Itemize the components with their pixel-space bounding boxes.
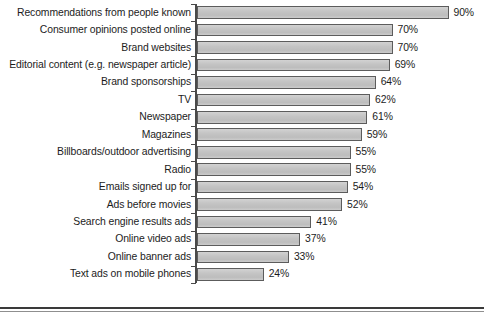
bar-value-label: 59% bbox=[367, 129, 388, 141]
bar bbox=[197, 24, 393, 37]
axis-tick bbox=[191, 126, 196, 127]
chart-row: TV62% bbox=[0, 91, 484, 108]
chart-row: Recommendations from people known90% bbox=[0, 4, 484, 21]
axis-tick bbox=[191, 231, 196, 232]
bar-group: 37% bbox=[197, 233, 326, 246]
bar bbox=[197, 268, 264, 281]
bar bbox=[197, 163, 351, 176]
category-label: Newspaper bbox=[3, 111, 191, 123]
bar-value-label: 33% bbox=[294, 251, 315, 263]
category-label: Consumer opinions posted online bbox=[3, 24, 191, 36]
bar-value-label: 24% bbox=[269, 268, 290, 280]
bar-group: 55% bbox=[197, 146, 377, 159]
chart-row: Online banner ads33% bbox=[0, 248, 484, 265]
axis-tick bbox=[191, 56, 196, 57]
category-label: Editorial content (e.g. newspaper articl… bbox=[3, 59, 191, 71]
bar bbox=[197, 198, 343, 211]
axis-tick bbox=[191, 144, 196, 145]
bar bbox=[197, 41, 393, 54]
bar-group: 61% bbox=[197, 111, 393, 124]
bar-group: 70% bbox=[197, 24, 419, 37]
bar bbox=[197, 6, 449, 19]
chart-row: Consumer opinions posted online70% bbox=[0, 21, 484, 38]
category-label: Billboards/outdoor advertising bbox=[3, 146, 191, 158]
chart-row: Search engine results ads41% bbox=[0, 213, 484, 230]
chart-row: Brand websites70% bbox=[0, 39, 484, 56]
axis-tick bbox=[191, 74, 196, 75]
bar-group: 64% bbox=[197, 76, 402, 89]
axis-tick bbox=[191, 39, 196, 40]
category-label: Search engine results ads bbox=[3, 216, 191, 228]
bar bbox=[197, 76, 376, 89]
bar-group: 41% bbox=[197, 216, 337, 229]
bar bbox=[197, 146, 351, 159]
chart-row: Radio55% bbox=[0, 161, 484, 178]
bar-group: 62% bbox=[197, 94, 396, 107]
bar-value-label: 37% bbox=[305, 233, 326, 245]
axis-tick bbox=[191, 266, 196, 267]
chart-row: Magazines59% bbox=[0, 126, 484, 143]
bar-group: 90% bbox=[197, 6, 475, 19]
bar-value-label: 70% bbox=[398, 42, 419, 54]
bar bbox=[197, 59, 390, 72]
axis-tick bbox=[191, 161, 196, 162]
category-label: TV bbox=[3, 94, 191, 106]
bar-value-label: 55% bbox=[356, 146, 377, 158]
bar-value-label: 70% bbox=[398, 24, 419, 36]
axis-tick bbox=[191, 4, 196, 5]
category-label: Radio bbox=[3, 164, 191, 176]
axis-tick bbox=[191, 248, 196, 249]
bar-value-label: 64% bbox=[381, 76, 402, 88]
bar bbox=[197, 94, 371, 107]
horizontal-bar-chart: Recommendations from people known90%Cons… bbox=[0, 0, 484, 317]
bar-value-label: 61% bbox=[372, 111, 393, 123]
category-label: Recommendations from people known bbox=[3, 7, 191, 19]
bar-value-label: 69% bbox=[395, 59, 416, 71]
plot-area: Recommendations from people known90%Cons… bbox=[0, 4, 484, 283]
category-label: Ads before movies bbox=[3, 199, 191, 211]
bar-group: 52% bbox=[197, 198, 368, 211]
axis-tick bbox=[191, 21, 196, 22]
bar-value-label: 54% bbox=[353, 181, 374, 193]
category-label: Online banner ads bbox=[3, 251, 191, 263]
category-label: Emails signed up for bbox=[3, 181, 191, 193]
category-label: Online video ads bbox=[3, 233, 191, 245]
bar-value-label: 55% bbox=[356, 164, 377, 176]
bar-group: 70% bbox=[197, 41, 419, 54]
bar-group: 54% bbox=[197, 181, 374, 194]
bar-value-label: 62% bbox=[375, 94, 396, 106]
category-label: Brand websites bbox=[3, 42, 191, 54]
chart-row: Brand sponsorships64% bbox=[0, 74, 484, 91]
bar-value-label: 52% bbox=[347, 199, 368, 211]
chart-row: Editorial content (e.g. newspaper articl… bbox=[0, 56, 484, 73]
axis-tick bbox=[191, 196, 196, 197]
bar-value-label: 41% bbox=[316, 216, 337, 228]
bar-group: 55% bbox=[197, 163, 377, 176]
bar-group: 24% bbox=[197, 268, 290, 281]
category-label: Text ads on mobile phones bbox=[3, 268, 191, 280]
bar-group: 59% bbox=[197, 128, 388, 141]
category-label: Brand sponsorships bbox=[3, 76, 191, 88]
chart-row: Emails signed up for54% bbox=[0, 178, 484, 195]
chart-row: Text ads on mobile phones24% bbox=[0, 266, 484, 283]
footer-rule-secondary bbox=[0, 311, 484, 312]
axis-tick bbox=[191, 109, 196, 110]
axis-tick bbox=[191, 179, 196, 180]
footer-rule bbox=[0, 307, 484, 309]
bar bbox=[197, 111, 368, 124]
bar-group: 69% bbox=[197, 59, 416, 72]
category-label: Magazines bbox=[3, 129, 191, 141]
axis-tick bbox=[191, 283, 196, 284]
chart-row: Ads before movies52% bbox=[0, 196, 484, 213]
bar-group: 33% bbox=[197, 251, 315, 264]
axis-tick bbox=[191, 213, 196, 214]
bar bbox=[197, 251, 289, 264]
chart-row: Online video ads37% bbox=[0, 231, 484, 248]
chart-row: Newspaper61% bbox=[0, 109, 484, 126]
bar-value-label: 90% bbox=[454, 7, 475, 19]
bar bbox=[197, 181, 348, 194]
bar bbox=[197, 128, 362, 141]
axis-tick bbox=[191, 91, 196, 92]
bar bbox=[197, 233, 301, 246]
chart-row: Billboards/outdoor advertising55% bbox=[0, 144, 484, 161]
